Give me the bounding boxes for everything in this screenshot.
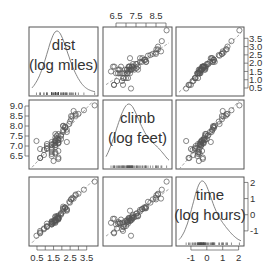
data-point (111, 82, 116, 87)
variable-unit: (log miles) (29, 56, 98, 73)
scatter-panel-climb-vs-time (176, 99, 244, 170)
pairs-plot-canvas: dist(log miles)climb(log feet)time(log h… (0, 0, 273, 276)
bottom-tick-label: 1 (220, 252, 225, 263)
data-point (237, 103, 242, 108)
data-point (184, 86, 189, 91)
top-tick-label: 6.5 (109, 10, 122, 21)
bottom-tick-label: 2 (236, 252, 241, 263)
data-point (237, 28, 242, 33)
scatter-panel-dist-vs-time (176, 27, 244, 96)
variable-unit: (log hours) (174, 206, 246, 223)
bottom-tick-label: 1.5 (47, 252, 60, 263)
data-point (127, 56, 132, 61)
regression-line (32, 99, 95, 167)
data-point (81, 108, 86, 113)
variable-name: dist (52, 36, 76, 53)
variable-name: time (196, 186, 224, 203)
data-point (159, 187, 164, 192)
data-point (164, 179, 169, 184)
diag-panel-climb: climb(log feet) (103, 100, 172, 169)
diag-panel-dist: dist(log miles) (29, 27, 98, 96)
right-tick-label: 0 (250, 209, 255, 220)
top-tick-label: 8.5 (149, 10, 162, 21)
data-point (38, 146, 43, 151)
scatter-panel-dist-vs-climb (103, 27, 172, 96)
data-point (208, 139, 213, 144)
bottom-tick-label: 0 (204, 252, 209, 263)
bottom-tick-label: 0.5 (30, 252, 43, 263)
scatterplot-matrix: dist(log miles)climb(log feet)time(log h… (0, 0, 273, 276)
data-point (92, 179, 97, 184)
data-point (229, 39, 234, 44)
right-tick-label: 2 (250, 177, 255, 188)
bottom-tick-label: 2.5 (64, 252, 77, 263)
data-point (81, 187, 86, 192)
data-point (64, 139, 69, 144)
data-point (128, 86, 133, 91)
bottom-tick-label: -1 (187, 252, 195, 263)
data-point (128, 233, 133, 238)
data-point (164, 28, 169, 33)
diag-panel-time: time(log hours) (174, 177, 246, 246)
bottom-tick-label: 3.5 (80, 252, 93, 263)
data-point (108, 69, 113, 74)
data-point (159, 39, 164, 44)
data-point (184, 138, 189, 143)
variable-unit: (log feet) (108, 129, 167, 146)
data-point (92, 103, 97, 108)
top-tick-label: 7.5 (129, 10, 142, 21)
right-tick-label: 1 (250, 193, 255, 204)
scatter-panel-time-vs-dist (29, 177, 98, 246)
data-point (51, 158, 56, 163)
variable-name: climb (120, 109, 155, 126)
data-point (34, 138, 39, 143)
right-tick-label: -1 (250, 225, 258, 236)
scatter-panel-climb-vs-dist (29, 99, 98, 169)
right-tick-label: 0.5 (249, 82, 262, 93)
scatter-panel-time-vs-climb (103, 177, 172, 246)
data-point (120, 82, 125, 87)
left-tick-label: 6.5 (10, 150, 23, 161)
data-point (127, 208, 132, 213)
